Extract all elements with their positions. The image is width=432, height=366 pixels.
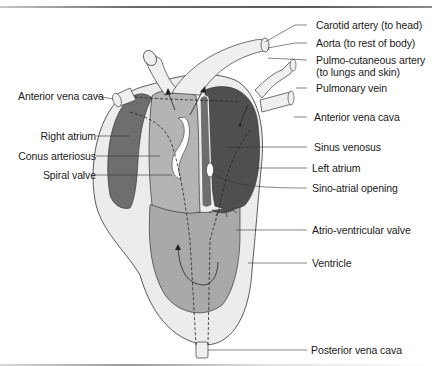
label-left-atrium: Left atrium	[312, 162, 361, 174]
label-spiral-valve: Spiral valve	[18, 169, 96, 181]
label-sino-atrial-opening: Sino-atrial opening	[312, 182, 398, 194]
posterior-vena-cava	[196, 342, 208, 358]
label-anterior-vena-cava-left: Anterior vena cava	[18, 90, 96, 102]
label-atrio-ventricular-valve: Atrio-ventricular valve	[312, 224, 411, 236]
sino-atrial-opening	[207, 163, 214, 177]
label-conus-arteriosus: Conus arteriosus	[10, 150, 96, 162]
left-atrium	[205, 87, 259, 209]
label-anterior-vena-cava-right: Anterior vena cava	[314, 111, 400, 123]
label-posterior-vena-cava: Posterior vena cava	[311, 344, 402, 356]
label-ventricle: Ventricle	[312, 257, 351, 269]
label-pulmonary-vein: Pulmonary vein	[316, 82, 387, 94]
label-carotid-artery: Carotid artery (to head)	[316, 19, 422, 31]
label-pulmo-cutaneous-artery-sub: (to lungs and skin)	[316, 66, 400, 78]
label-aorta: Aorta (to rest of body)	[316, 37, 415, 49]
label-sinus-venosus: Sinus venosus	[314, 141, 381, 153]
label-pulmo-cutaneous-artery: Pulmo-cutaneous artery	[316, 54, 425, 66]
label-right-atrium: Right atrium	[18, 130, 96, 142]
